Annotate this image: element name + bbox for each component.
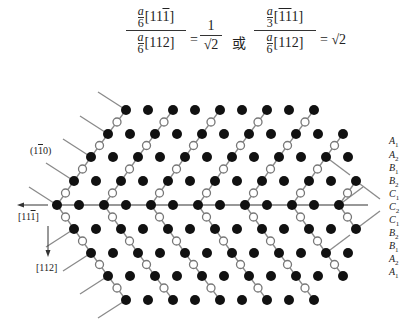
filled-atom [168, 105, 178, 115]
filled-atom [180, 152, 190, 162]
open-atom [267, 165, 275, 173]
filled-atom [215, 200, 225, 210]
open-atom [173, 165, 181, 173]
filled-atom [215, 295, 225, 305]
open-atom [126, 237, 134, 245]
filled-atom [249, 152, 259, 162]
filled-atom [313, 129, 323, 139]
open-atom [314, 165, 322, 173]
open-atom [344, 189, 352, 197]
open-atom [267, 237, 275, 245]
filled-atom [150, 129, 160, 139]
filled-atom [168, 295, 178, 305]
open-atom [250, 213, 258, 221]
open-atom [160, 118, 168, 126]
open-atom [113, 118, 121, 126]
filled-atom [343, 152, 353, 162]
open-atom [79, 165, 87, 173]
filled-atom [309, 200, 319, 210]
filled-atom [193, 200, 203, 210]
filled-atom [274, 248, 284, 258]
open-atom [250, 189, 258, 197]
filled-atom [279, 176, 289, 186]
filled-atom [125, 129, 135, 139]
filled-atom [121, 200, 131, 210]
filled-atom [227, 248, 237, 258]
horizontal-direction-label: [111] [18, 211, 39, 222]
open-atom [96, 142, 104, 150]
open-atom [254, 118, 262, 126]
filled-atom [91, 176, 101, 186]
lattice-diagram [0, 0, 409, 336]
open-atom [126, 165, 134, 173]
filled-atom [284, 295, 294, 305]
filled-atom [138, 176, 148, 186]
open-atom [109, 213, 117, 221]
filled-atom [296, 248, 306, 258]
filled-atom [52, 200, 62, 210]
filled-atom [232, 176, 242, 186]
filled-atom [227, 152, 237, 162]
filled-atom [257, 224, 267, 234]
open-atom [207, 284, 215, 292]
open-atom [173, 237, 181, 245]
open-atom [220, 237, 228, 245]
filled-atom [215, 105, 225, 115]
filled-atom [155, 248, 165, 258]
filled-atom [291, 129, 301, 139]
filled-atom [125, 271, 135, 281]
filled-atom [197, 129, 207, 139]
filled-atom [190, 295, 200, 305]
filled-atom [202, 152, 212, 162]
filled-atom [244, 129, 254, 139]
filled-atom [103, 271, 113, 281]
open-atom [314, 237, 322, 245]
arrow-down-icon [46, 250, 51, 257]
open-atom [156, 189, 164, 197]
open-atom [190, 261, 198, 269]
filled-atom [309, 105, 319, 115]
filled-atom [108, 248, 118, 258]
plane-label: (110) [30, 145, 51, 156]
filled-atom [210, 224, 220, 234]
filled-atom [262, 105, 272, 115]
open-atom [190, 142, 198, 150]
filled-atom [168, 200, 178, 210]
open-atom [297, 189, 305, 197]
filled-atom [262, 295, 272, 305]
filled-atom [287, 200, 297, 210]
filled-atom [143, 105, 153, 115]
filled-atom [351, 176, 361, 186]
open-atom [237, 261, 245, 269]
filled-atom [91, 224, 101, 234]
open-atom [297, 213, 305, 221]
filled-atom [74, 200, 84, 210]
filled-atom [266, 271, 276, 281]
filled-atom [150, 271, 160, 281]
filled-atom [244, 271, 254, 281]
open-atom [331, 261, 339, 269]
filled-atom [237, 295, 247, 305]
open-atom [113, 284, 121, 292]
filled-atom [266, 129, 276, 139]
open-atom [301, 284, 309, 292]
open-atom [203, 213, 211, 221]
filled-atom [240, 200, 250, 210]
filled-atom [321, 152, 331, 162]
filled-atom [296, 152, 306, 162]
filled-atom [249, 248, 259, 258]
filled-atom [326, 224, 336, 234]
open-atom [284, 142, 292, 150]
filled-atom [138, 224, 148, 234]
open-atom [207, 118, 215, 126]
filled-atom [351, 224, 361, 234]
filled-atom [163, 176, 173, 186]
open-atom [254, 284, 262, 292]
filled-atom [108, 152, 118, 162]
filled-atom [69, 224, 79, 234]
open-atom [344, 213, 352, 221]
filled-atom [262, 200, 272, 210]
filled-atom [338, 271, 348, 281]
filled-atom [185, 224, 195, 234]
open-atom [62, 189, 70, 197]
